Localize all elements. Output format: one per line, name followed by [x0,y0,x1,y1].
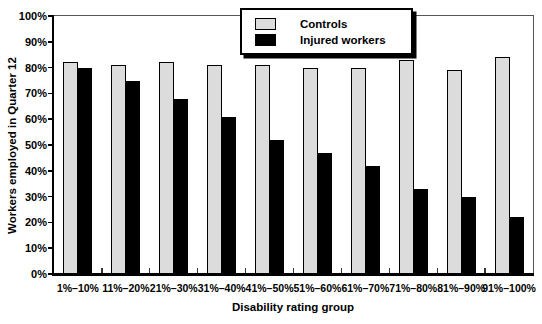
bar-controls-81-90 [447,70,462,274]
bar-injured-workers-81-90 [462,197,476,274]
bar-controls-31-40 [207,65,222,274]
y-tick-label-30: 30% [0,191,47,203]
bar-controls-11-20 [111,65,126,274]
category-tick-3 [197,268,198,273]
y-tick-80 [48,67,53,69]
y-tick-70 [48,93,53,95]
legend-label-injured-workers: Injured workers [300,33,386,47]
bar-injured-workers-31-40 [222,117,236,274]
y-tick-0 [48,273,53,275]
y-tick-60 [48,118,53,120]
category-tick-5 [293,268,294,273]
y-tick-label-10: 10% [0,242,47,254]
bar-injured-workers-71-80 [414,189,428,274]
bar-controls-51-60 [303,68,318,274]
y-tick-50 [48,144,53,146]
bar-injured-workers-1-10 [78,68,92,274]
bar-injured-workers-21-30 [174,99,188,274]
bar-injured-workers-91-100 [510,217,524,274]
bar-injured-workers-11-20 [126,81,140,275]
legend-item-controls: Controls [255,16,411,32]
x-tick-label-91-100: 91%–100% [478,282,540,294]
y-tick-40 [48,170,53,172]
legend-swatch-injured-workers [255,34,276,46]
y-tick-label-0: 0% [0,268,47,280]
category-tick-9 [484,268,485,273]
x-axis-title: Disability rating group [193,301,393,313]
category-tick-7 [389,268,390,273]
bar-injured-workers-41-50 [270,140,284,274]
legend-item-injured-workers: Injured workers [255,32,411,48]
y-tick-30 [48,196,53,198]
y-tick-label-50: 50% [0,139,47,151]
category-tick-6 [341,268,342,273]
bar-controls-41-50 [255,65,270,274]
bar-controls-91-100 [495,57,510,274]
bar-controls-71-80 [399,60,414,274]
bar-injured-workers-61-70 [366,166,380,274]
y-tick-label-80: 80% [0,62,47,74]
y-tick-label-100: 100% [0,10,47,22]
y-tick-label-20: 20% [0,216,47,228]
category-tick-8 [437,268,438,273]
y-tick-label-40: 40% [0,165,47,177]
legend-swatch-controls [255,18,276,30]
category-tick-4 [245,268,246,273]
category-tick-2 [149,268,150,273]
bar-injured-workers-51-60 [318,153,332,274]
bar-controls-61-70 [351,68,366,274]
legend-label-controls: Controls [300,17,347,31]
y-tick-label-90: 90% [0,36,47,48]
y-tick-label-70: 70% [0,87,47,99]
figure-root: Workers employed in Quarter 12 Disabilit… [0,0,542,324]
y-tick-10 [48,247,53,249]
bar-controls-1-10 [63,62,78,274]
y-tick-90 [48,41,53,43]
legend: Controls Injured workers [240,8,413,55]
category-tick-1 [101,268,102,273]
y-tick-label-60: 60% [0,113,47,125]
y-tick-20 [48,222,53,224]
bar-controls-21-30 [159,62,174,274]
y-tick-100 [48,15,53,17]
